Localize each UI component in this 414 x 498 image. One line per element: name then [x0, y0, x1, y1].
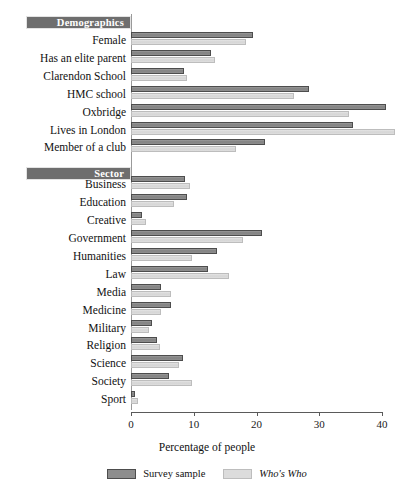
bar-survey-sample — [131, 122, 353, 128]
bar-whos-who — [131, 75, 187, 81]
category-label-column: DemographicsSectorFemaleHas an elite par… — [0, 0, 131, 498]
bar-survey-sample — [131, 302, 171, 308]
category-label: Law — [5, 268, 131, 280]
bar-whos-who — [131, 398, 138, 404]
bar-survey-sample — [131, 68, 184, 74]
bar-whos-who — [131, 291, 171, 297]
bar-whos-who — [131, 273, 229, 279]
category-label: Oxbridge — [5, 106, 131, 118]
bar-whos-who — [131, 219, 146, 225]
bar-survey-sample — [131, 176, 185, 182]
x-tick-mark — [194, 412, 195, 416]
x-tick-mark — [382, 412, 383, 416]
bar-survey-sample — [131, 320, 152, 326]
legend-label-survey-sample: Survey sample — [143, 468, 205, 479]
category-label: Religion — [5, 339, 131, 351]
legend-label-whos-who: Who's Who — [259, 468, 306, 479]
category-label: Media — [5, 286, 131, 298]
chart-legend: Survey sample Who's Who — [0, 468, 414, 479]
bar-survey-sample — [131, 194, 187, 200]
bar-whos-who — [131, 39, 246, 45]
category-label: HMC school — [5, 88, 131, 100]
category-label: Government — [5, 232, 131, 244]
category-label: Clarendon School — [5, 70, 131, 82]
bar-survey-sample — [131, 373, 169, 379]
category-label: Humanities — [5, 250, 131, 262]
category-label: Sport — [5, 393, 131, 405]
bar-survey-sample — [131, 32, 253, 38]
bar-whos-who — [131, 237, 243, 243]
bar-whos-who — [131, 146, 236, 152]
category-label: Education — [5, 196, 131, 208]
category-label: Society — [5, 375, 131, 387]
bar-whos-who — [131, 327, 149, 333]
category-label: Member of a club — [5, 141, 131, 153]
group-header-demographics: Demographics — [26, 16, 131, 29]
bar-survey-sample — [131, 391, 135, 397]
bar-survey-sample — [131, 230, 262, 236]
bar-survey-sample — [131, 355, 183, 361]
x-tick-label: 20 — [242, 418, 272, 430]
bar-survey-sample — [131, 284, 161, 290]
bar-whos-who — [131, 201, 174, 207]
category-label: Lives in London — [5, 124, 131, 136]
x-tick-mark — [131, 412, 132, 416]
bar-survey-sample — [131, 86, 309, 92]
category-label: Military — [5, 322, 131, 334]
bar-whos-who — [131, 309, 161, 315]
bar-survey-sample — [131, 266, 208, 272]
legend-item-whos-who: Who's Who — [223, 468, 306, 479]
bar-survey-sample — [131, 50, 211, 56]
bar-survey-sample — [131, 337, 157, 343]
bar-whos-who — [131, 93, 294, 99]
bar-whos-who — [131, 362, 179, 368]
bar-chart: 010203040 DemographicsSectorFemaleHas an… — [0, 0, 414, 498]
category-label: Female — [5, 34, 131, 46]
legend-item-survey-sample: Survey sample — [107, 468, 205, 479]
bar-survey-sample — [131, 139, 265, 145]
bar-whos-who — [131, 129, 395, 135]
legend-swatch-icon-survey-sample — [107, 469, 136, 479]
x-tick-mark — [319, 412, 320, 416]
bar-whos-who — [131, 344, 160, 350]
category-label: Creative — [5, 214, 131, 226]
bars-layer — [131, 14, 414, 410]
bar-whos-who — [131, 183, 190, 189]
bar-whos-who — [131, 255, 192, 261]
bar-whos-who — [131, 380, 192, 386]
category-label: Science — [5, 357, 131, 369]
x-tick-label: 10 — [179, 418, 209, 430]
bar-whos-who — [131, 111, 349, 117]
bar-whos-who — [131, 57, 215, 63]
x-tick-label: 30 — [304, 418, 334, 430]
legend-swatch-icon-whos-who — [223, 469, 252, 479]
x-axis-title: Percentage of people — [0, 441, 414, 453]
x-tick-label: 40 — [367, 418, 397, 430]
bar-survey-sample — [131, 212, 142, 218]
bar-survey-sample — [131, 104, 386, 110]
category-label: Has an elite parent — [5, 52, 131, 64]
category-label: Medicine — [5, 304, 131, 316]
bar-survey-sample — [131, 248, 217, 254]
category-label: Business — [5, 178, 131, 190]
x-tick-mark — [257, 412, 258, 416]
